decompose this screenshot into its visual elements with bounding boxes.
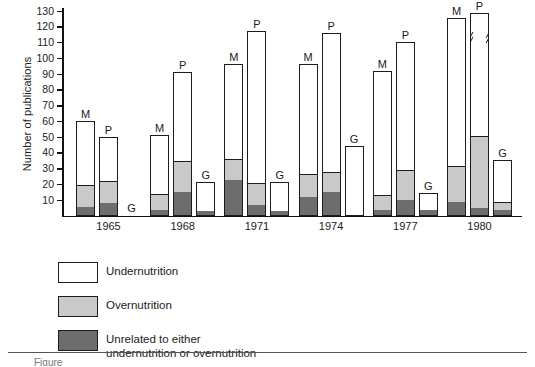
segment-undernutrition — [494, 161, 511, 202]
segment-undernutrition — [248, 32, 265, 183]
bar-1980-P[interactable]: P — [470, 13, 489, 216]
y-tick — [57, 105, 62, 106]
segment-undernutrition — [300, 65, 317, 173]
figure: Number of publications 10203040506070809… — [0, 0, 535, 367]
legend-item-unrelated: Unrelated to either undernutrition or ov… — [58, 330, 498, 360]
y-tick — [57, 89, 62, 90]
bar-1968-M[interactable]: M — [150, 135, 169, 215]
segment-undernutrition — [323, 34, 340, 172]
bar-1977-G[interactable]: G — [419, 193, 438, 215]
segment-unrelated — [448, 202, 465, 215]
bar-letter-label-P: P — [476, 1, 483, 12]
segment-overnutrition — [374, 195, 391, 210]
bar-letter-label-G: G — [350, 134, 359, 145]
segment-undernutrition — [397, 43, 414, 170]
bar-1971-P[interactable]: P — [247, 31, 266, 216]
segment-undernutrition — [374, 72, 391, 195]
bar-letter-label-M: M — [452, 6, 461, 17]
segment-unrelated — [420, 210, 437, 215]
y-tick-label: 20 — [28, 179, 54, 190]
segment-overnutrition — [100, 181, 117, 203]
x-tick-label-1974: 1974 — [319, 220, 343, 232]
legend-label-line1: Unrelated to either — [106, 333, 256, 347]
segment-undernutrition — [471, 14, 488, 136]
x-tick-label-1965: 1965 — [96, 220, 120, 232]
legend-swatch-undernutrition — [58, 262, 98, 283]
segment-unrelated — [471, 208, 488, 214]
y-tick — [57, 200, 62, 201]
x-axis-line — [62, 216, 522, 218]
legend-item-undernutrition: Undernutrition — [58, 262, 498, 283]
legend-item-overnutrition: Overnutrition — [58, 296, 498, 317]
x-tick-label-1977: 1977 — [393, 220, 417, 232]
y-tick-label: 10 — [28, 194, 54, 205]
bar-letter-label-G: G — [498, 148, 507, 159]
bar-1974-P[interactable]: P — [322, 33, 341, 216]
bar-1977-M[interactable]: M — [373, 71, 392, 215]
bar-1974-G[interactable]: G — [345, 146, 364, 215]
figure-caption: Figure — [34, 357, 504, 366]
bar-1968-G[interactable]: G — [196, 182, 215, 215]
plot-area: 102030405060708090100110120130MPG1965MPG… — [62, 8, 522, 217]
segment-unrelated — [271, 211, 288, 214]
legend-label-line1: Undernutrition — [106, 265, 178, 279]
y-tick — [57, 42, 62, 43]
segment-unrelated — [151, 210, 168, 215]
y-tick-label: 120 — [28, 21, 54, 32]
bar-1974-M[interactable]: M — [299, 64, 318, 215]
segment-unrelated — [225, 180, 242, 215]
bar-1980-G[interactable]: G — [493, 160, 512, 215]
segment-overnutrition — [174, 161, 191, 193]
bar-letter-label-P: P — [253, 19, 260, 30]
y-tick-label: 50 — [28, 131, 54, 142]
caption-rule — [8, 352, 527, 353]
bar-1968-P[interactable]: P — [173, 72, 192, 216]
y-tick-label: 110 — [28, 37, 54, 48]
bar-letter-label-G: G — [127, 203, 136, 214]
segment-undernutrition — [420, 194, 437, 209]
bar-letter-label-M: M — [229, 52, 238, 63]
bar-1977-P[interactable]: P — [396, 42, 415, 215]
bar-1971-G[interactable]: G — [270, 182, 289, 215]
bar-letter-label-M: M — [378, 59, 387, 70]
y-tick-label: 30 — [28, 163, 54, 174]
y-tick-label: 130 — [28, 5, 54, 16]
y-tick — [57, 74, 62, 75]
segment-overnutrition — [248, 183, 265, 205]
bar-letter-label-P: P — [105, 125, 112, 136]
legend-label-overnutrition: Overnutrition — [106, 296, 172, 313]
y-tick — [57, 58, 62, 59]
bar-letter-label-M: M — [81, 109, 90, 120]
segment-unrelated — [248, 205, 265, 214]
bar-1980-M[interactable]: M — [447, 18, 466, 215]
y-tick — [57, 137, 62, 138]
y-tick-label: 60 — [28, 116, 54, 127]
segment-unrelated — [100, 203, 117, 214]
y-tick — [57, 11, 62, 12]
y-tick — [57, 184, 62, 185]
legend-swatch-unrelated — [58, 330, 98, 351]
bar-1965-P[interactable]: P — [99, 137, 118, 216]
y-tick-label: 100 — [28, 53, 54, 64]
segment-undernutrition — [151, 136, 168, 194]
segment-unrelated — [197, 211, 214, 214]
segment-overnutrition — [494, 202, 511, 210]
segment-unrelated — [300, 197, 317, 214]
segment-overnutrition — [323, 172, 340, 193]
segment-unrelated — [374, 210, 391, 215]
bar-1965-M[interactable]: M — [76, 121, 95, 216]
bar-1965-G[interactable]: G — [122, 215, 141, 216]
segment-unrelated — [397, 200, 414, 214]
y-tick — [57, 168, 62, 169]
segment-undernutrition — [197, 183, 214, 211]
segment-undernutrition — [448, 19, 465, 165]
segment-undernutrition — [174, 73, 191, 161]
bar-letter-label-P: P — [402, 30, 409, 41]
bar-letter-label-G: G — [201, 170, 210, 181]
segment-overnutrition — [471, 136, 488, 209]
y-tick — [57, 26, 62, 27]
legend-swatch-overnutrition — [58, 296, 98, 317]
segment-undernutrition — [271, 183, 288, 211]
legend-label-line1: Overnutrition — [106, 299, 172, 313]
bar-1971-M[interactable]: M — [224, 64, 243, 215]
